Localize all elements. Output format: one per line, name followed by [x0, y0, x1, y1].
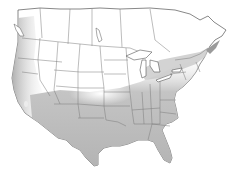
range-map: [0, 0, 246, 175]
range-gap-spot: [24, 101, 28, 107]
